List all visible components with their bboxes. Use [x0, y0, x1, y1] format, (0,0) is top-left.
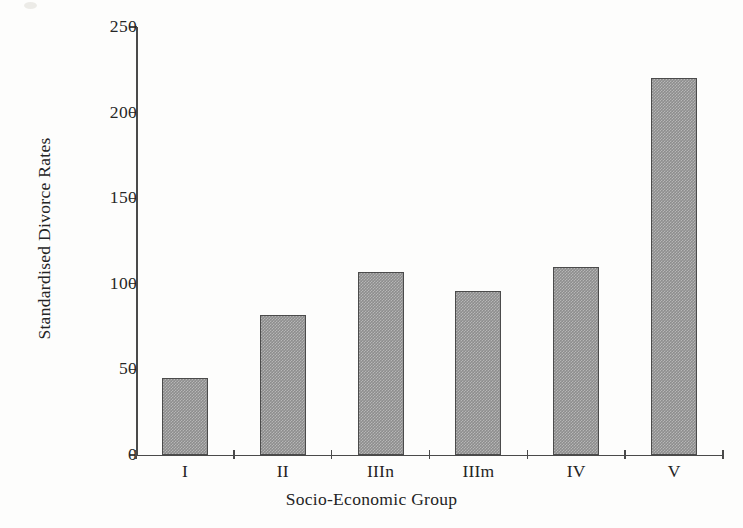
y-tick-label: 100	[91, 275, 137, 293]
y-axis-line	[136, 27, 138, 456]
x-tick-mark	[331, 450, 332, 459]
bar-IV	[553, 267, 599, 455]
bar-IIIm	[455, 291, 501, 455]
x-tick-mark	[135, 450, 136, 459]
x-tick-label-IIIm: IIIm	[438, 461, 518, 481]
y-tick-label: 0	[91, 446, 137, 464]
y-tick-label: 50	[91, 360, 137, 378]
bar-I	[162, 378, 208, 455]
x-tick-mark	[429, 450, 430, 459]
x-tick-mark	[624, 450, 625, 459]
plot-area: 050100150200250 IIIIIInIIImIVV Socio-Eco…	[0, 0, 743, 528]
x-tick-label-II: II	[243, 461, 323, 481]
bar-IIIn	[358, 272, 404, 455]
x-tick-label-IIIn: IIIn	[341, 461, 421, 481]
x-tick-mark	[233, 450, 234, 459]
x-axis-title: Socio-Economic Group	[0, 489, 743, 510]
y-tick-label: 150	[91, 189, 137, 207]
y-axis-title: Standardised Divorce Rates	[34, 99, 55, 379]
x-tick-label-V: V	[634, 461, 714, 481]
y-tick-label: 200	[91, 104, 137, 122]
y-tick-label: 250	[91, 18, 137, 36]
x-tick-label-IV: IV	[536, 461, 616, 481]
bar-II	[260, 315, 306, 455]
x-tick-mark	[527, 450, 528, 459]
bar-V	[651, 78, 697, 455]
chart-figure: 050100150200250 IIIIIInIIImIVV Socio-Eco…	[0, 0, 743, 528]
x-tick-label-I: I	[145, 461, 225, 481]
x-tick-mark	[722, 450, 723, 459]
